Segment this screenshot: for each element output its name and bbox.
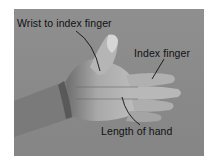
label-wrist-to-index-finger: Wrist to index finger bbox=[17, 17, 112, 29]
label-index-finger: Index finger bbox=[134, 47, 190, 59]
label-length-of-hand: Length of hand bbox=[101, 125, 172, 137]
hand-photo: Wrist to index finger Index finger Lengt… bbox=[14, 9, 204, 156]
